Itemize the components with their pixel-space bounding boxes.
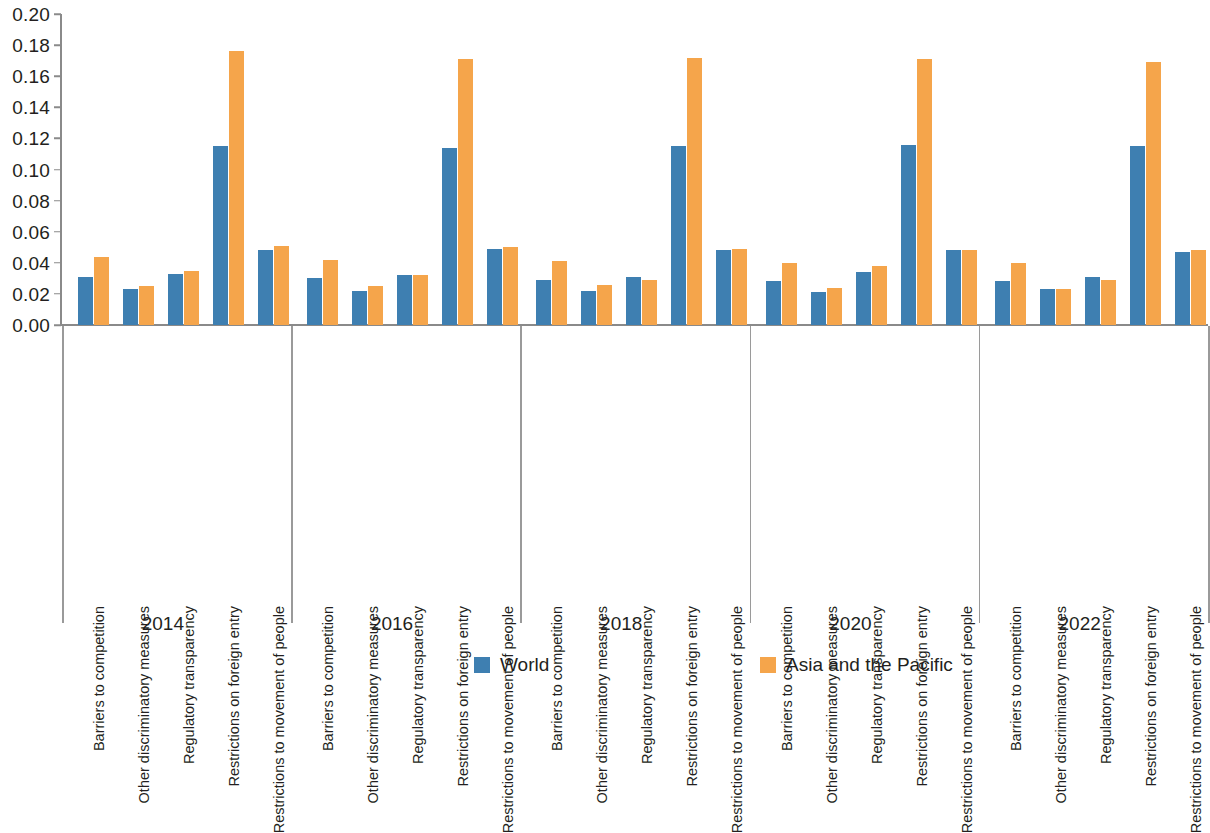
- y-axis-tick-label: 0.12: [12, 129, 50, 148]
- bar-world: [995, 281, 1010, 325]
- y-axis-tick-mark: [54, 138, 61, 140]
- group-separator: [1208, 326, 1210, 623]
- bar-world: [901, 145, 916, 325]
- group-year-label: 2020: [829, 614, 871, 633]
- category-axis-label: Regulatory transparency: [182, 606, 197, 764]
- group-separator: [62, 326, 64, 623]
- legend-label: Asia and the Pacific: [786, 655, 953, 674]
- bar-asia-pacific: [323, 260, 338, 325]
- category-axis-label: Restrictions on foreign entry: [227, 606, 242, 787]
- legend-swatch-icon: [474, 657, 490, 673]
- y-axis-tick-label: 0.06: [12, 222, 50, 241]
- y-axis-tick-mark: [54, 169, 61, 171]
- legend-item[interactable]: Asia and the Pacific: [760, 655, 953, 674]
- chart-legend: WorldAsia and the Pacific: [0, 655, 1210, 684]
- bar-world: [442, 148, 457, 325]
- category-slot: [1171, 14, 1210, 325]
- bar-world: [258, 250, 273, 325]
- y-axis-tick-mark: [54, 293, 61, 295]
- category-slot: [348, 14, 393, 325]
- bar-asia-pacific: [1056, 289, 1071, 325]
- category-axis-label: Restrictions to movement of people: [272, 606, 287, 833]
- bar-asia-pacific: [368, 286, 383, 325]
- category-slot: [897, 14, 942, 325]
- category-axis-label: Restrictions on foreign entry: [456, 606, 471, 787]
- bar-world: [856, 272, 871, 325]
- bar-asia-pacific: [962, 250, 977, 325]
- bar-asia-pacific: [917, 59, 932, 325]
- bar-asia-pacific: [274, 246, 289, 325]
- bar-asia-pacific: [458, 59, 473, 325]
- bar-world: [766, 281, 781, 325]
- bar-asia-pacific: [94, 257, 109, 325]
- bar-world: [626, 277, 641, 325]
- bar-asia-pacific: [1011, 263, 1026, 325]
- category-slot: [164, 14, 209, 325]
- y-axis-tick-mark: [54, 231, 61, 233]
- y-axis-tick-label: 0.20: [12, 5, 50, 24]
- legend-swatch-icon: [760, 657, 776, 673]
- y-axis: 0.200.180.160.140.120.100.080.060.040.02…: [0, 0, 58, 340]
- y-axis-tick-mark: [54, 107, 61, 109]
- bar-world: [536, 280, 551, 325]
- y-axis-tick-label: 0.04: [12, 253, 50, 272]
- category-axis-label: Other discriminatory measures: [137, 606, 152, 803]
- category-axis-label: Regulatory transparency: [640, 606, 655, 764]
- bar-asia-pacific: [1146, 62, 1161, 325]
- bar-world: [1175, 252, 1190, 325]
- category-axis-label: Restrictions on foreign entry: [915, 606, 930, 787]
- bar-asia-pacific: [597, 285, 612, 325]
- category-slot: [1126, 14, 1171, 325]
- bar-asia-pacific: [229, 51, 244, 325]
- category-axis-label: Restrictions to movement of people: [730, 606, 745, 833]
- bar-asia-pacific: [139, 286, 154, 325]
- bar-world: [811, 292, 826, 325]
- bar-asia-pacific: [1101, 280, 1116, 325]
- y-axis-tick-mark: [54, 75, 61, 77]
- legend-item[interactable]: World: [474, 655, 549, 674]
- group-separator: [979, 326, 981, 623]
- group-year-label: 2018: [600, 614, 642, 633]
- bar-world: [78, 277, 93, 325]
- category-axis-label: Restrictions to movement of people: [960, 606, 975, 833]
- bar-world: [352, 291, 367, 325]
- y-axis-tick-label: 0.14: [12, 98, 50, 117]
- bar-world: [671, 146, 686, 325]
- bar-world: [1085, 277, 1100, 325]
- category-slot: [622, 14, 667, 325]
- y-axis-tick-label: 0.00: [12, 316, 50, 335]
- bar-world: [397, 275, 412, 325]
- category-axis-label: Restrictions to movement of people: [501, 606, 516, 833]
- bar-world: [1040, 289, 1055, 325]
- bar-asia-pacific: [732, 249, 747, 325]
- category-slot: [209, 14, 254, 325]
- category-axis-label: Other discriminatory measures: [366, 606, 381, 803]
- bar-asia-pacific: [1191, 250, 1206, 325]
- category-axis-label: Other discriminatory measures: [595, 606, 610, 803]
- bar-world: [307, 278, 322, 325]
- category-axis-label: Regulatory transparency: [1099, 606, 1114, 764]
- bar-asia-pacific: [827, 288, 842, 325]
- y-axis-tick-label: 0.18: [12, 36, 50, 55]
- group-year-label: 2014: [142, 614, 184, 633]
- category-slot: [438, 14, 483, 325]
- bar-asia-pacific: [413, 275, 428, 325]
- category-slot: [119, 14, 164, 325]
- y-axis-tick-label: 0.16: [12, 67, 50, 86]
- bar-asia-pacific: [184, 271, 199, 325]
- category-slot: [807, 14, 852, 325]
- bar-asia-pacific: [642, 280, 657, 325]
- category-axis-label: Other discriminatory measures: [1054, 606, 1069, 803]
- bar-world: [581, 291, 596, 325]
- bar-group: [979, 14, 1208, 325]
- category-label-layer: Barriers to competitionOther discriminat…: [62, 330, 1208, 610]
- legend-label: World: [500, 655, 549, 674]
- y-axis-tick-mark: [54, 44, 61, 46]
- category-slot: [532, 14, 577, 325]
- group-year-label: 2022: [1059, 614, 1101, 633]
- category-slot: [303, 14, 348, 325]
- category-axis-label: Regulatory transparency: [870, 606, 885, 764]
- y-axis-tick-label: 0.10: [12, 160, 50, 179]
- group-year-label: 2016: [371, 614, 413, 633]
